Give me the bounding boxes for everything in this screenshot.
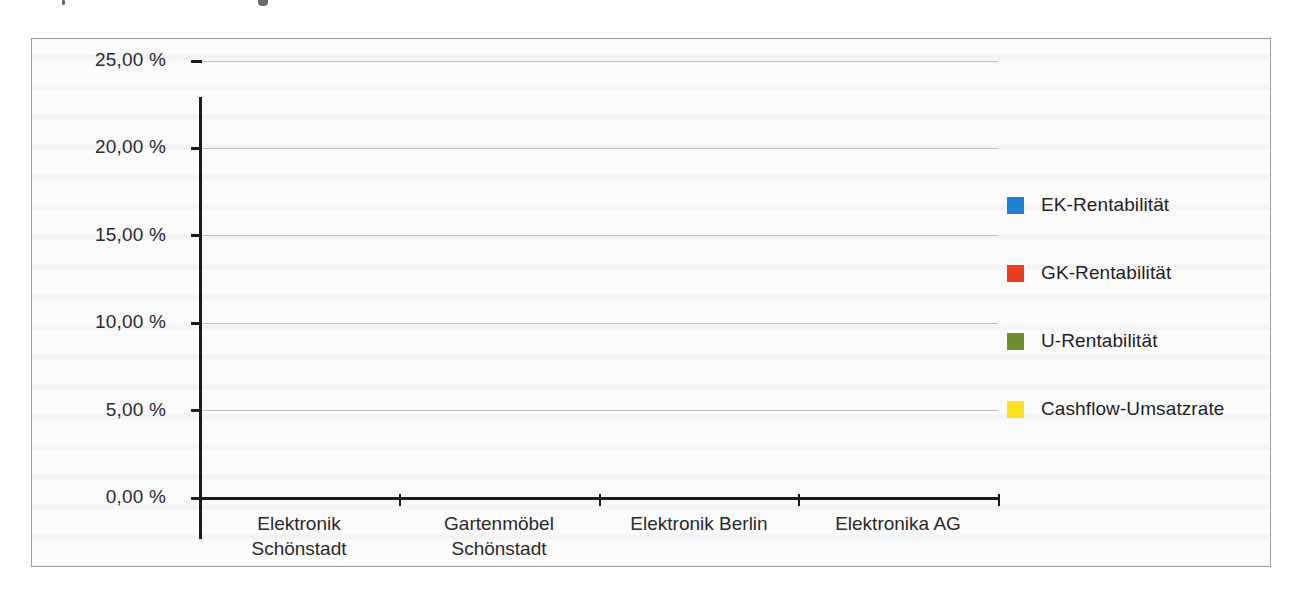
legend-color-swatch <box>1007 197 1024 214</box>
x-axis-category-label: Elektronik Schönstadt <box>199 511 399 561</box>
y-axis-tick-label: 20,00 % <box>16 136 166 158</box>
legend-color-swatch <box>1007 333 1024 350</box>
x-axis-tick <box>998 494 1000 506</box>
x-axis-category-label: Gartenmöbel Schönstadt <box>399 511 599 561</box>
clipped-caption-remnant <box>0 0 1302 14</box>
legend-color-swatch <box>1007 401 1024 418</box>
plot-area <box>199 61 998 498</box>
legend-item: GK-Rentabilität <box>1007 262 1171 284</box>
caption-descender-mark <box>258 0 268 6</box>
legend-item: EK-Rentabilität <box>1007 194 1169 216</box>
y-axis-tick-label: 25,00 % <box>16 49 166 71</box>
legend-item: U-Rentabilität <box>1007 330 1158 352</box>
legend-color-swatch <box>1007 265 1024 282</box>
y-axis-tick-label: 10,00 % <box>16 311 166 333</box>
legend-item: Cashflow-Umsatzrate <box>1007 398 1225 420</box>
x-axis-category-label: Elektronik Berlin <box>599 511 799 536</box>
legend-label: Cashflow-Umsatzrate <box>1041 398 1225 420</box>
legend-label: EK-Rentabilität <box>1041 194 1169 216</box>
chart-frame: 25,00 %20,00 %15,00 %10,00 %5,00 %0,00 %… <box>31 38 1271 567</box>
x-axis-category-label: Elektronika AG <box>798 511 998 536</box>
legend-label: U-Rentabilität <box>1041 330 1158 352</box>
y-axis-tick-label: 15,00 % <box>16 224 166 246</box>
legend-label: GK-Rentabilität <box>1041 262 1171 284</box>
caption-descender-mark <box>62 0 65 5</box>
y-axis-tick-label: 0,00 % <box>16 486 166 508</box>
y-axis-tick-label: 5,00 % <box>16 399 166 421</box>
